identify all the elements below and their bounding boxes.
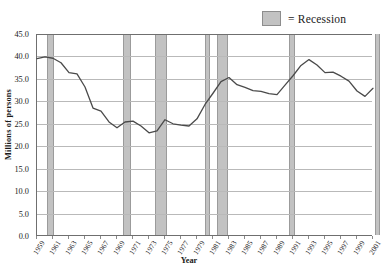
y-tick-label: 10.0 [14, 187, 29, 196]
recession-band [375, 34, 381, 235]
x-tick [372, 236, 373, 239]
x-tick-label: 1993 [303, 239, 318, 256]
y-tick-label: 0.0 [19, 232, 29, 241]
data-line-layer [37, 34, 372, 235]
x-tick-label: 1961 [47, 239, 62, 256]
x-tick-label: 1977 [175, 239, 190, 256]
y-axis-labels: 0.05.010.015.020.025.030.035.040.045.0 [0, 34, 33, 236]
y-tick-label: 15.0 [14, 164, 29, 173]
y-tick-label: 25.0 [14, 119, 29, 128]
x-tick-label: 1969 [111, 239, 126, 256]
x-tick-label: 1973 [143, 239, 158, 256]
x-tick-label: 1971 [127, 239, 142, 256]
chart-legend: = Recession [262, 11, 346, 26]
x-tick-label: 1995 [319, 239, 334, 256]
plot-area [36, 34, 372, 236]
recession-swatch-icon [262, 11, 281, 26]
legend-label: = Recession [288, 13, 346, 25]
x-tick-label: 1987 [255, 239, 270, 256]
x-tick-label: 1983 [223, 239, 238, 256]
x-axis-title: Year [0, 256, 378, 265]
y-tick-label: 45.0 [14, 30, 29, 39]
x-tick-label: 2001 [367, 239, 382, 256]
y-tick-label: 40.0 [14, 52, 29, 61]
x-tick-label: 1997 [335, 239, 350, 256]
y-tick-label: 35.0 [14, 74, 29, 83]
x-tick-label: 1975 [159, 239, 174, 256]
x-tick-label: 1965 [79, 239, 94, 256]
x-tick-label: 1985 [239, 239, 254, 256]
x-tick-label: 1989 [271, 239, 286, 256]
x-tick-label: 1959 [31, 239, 46, 256]
x-tick-label: 1963 [63, 239, 78, 256]
x-tick-label: 1991 [287, 239, 302, 256]
data-series-line [37, 57, 373, 133]
x-tick-label: 1967 [95, 239, 110, 256]
x-tick-label: 1979 [191, 239, 206, 256]
y-tick-label: 20.0 [14, 142, 29, 151]
y-tick-label: 30.0 [14, 97, 29, 106]
x-tick-label: 1999 [351, 239, 366, 256]
x-tick-label: 1981 [207, 239, 222, 256]
y-tick-label: 5.0 [19, 209, 29, 218]
